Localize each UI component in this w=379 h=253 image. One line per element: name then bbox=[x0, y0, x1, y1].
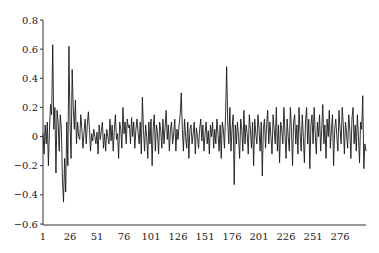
x-tick-label: 176 bbox=[222, 231, 241, 242]
y-tick-label: 0.4 bbox=[22, 73, 38, 84]
x-tick-label: 26 bbox=[64, 231, 77, 242]
y-axis-ticks: −0.6−0.4−0.200.20.40.60.8 bbox=[14, 15, 43, 230]
y-tick-label: 0.8 bbox=[22, 15, 38, 26]
x-tick-label: 51 bbox=[91, 231, 104, 242]
x-axis-ticks: 1265176101126151176201226251276 bbox=[40, 231, 350, 242]
line-chart: −0.6−0.4−0.200.20.40.60.8 12651761011261… bbox=[0, 0, 379, 253]
y-tick-label: −0.4 bbox=[14, 189, 38, 200]
y-tick-label: −0.6 bbox=[14, 219, 38, 230]
data-series-line bbox=[43, 45, 366, 202]
x-tick-label: 276 bbox=[331, 231, 350, 242]
y-tick-label: 0 bbox=[32, 131, 38, 142]
x-tick-label: 226 bbox=[277, 231, 296, 242]
x-tick-label: 126 bbox=[168, 231, 187, 242]
x-tick-label: 251 bbox=[304, 231, 323, 242]
x-tick-label: 76 bbox=[118, 231, 131, 242]
x-tick-label: 1 bbox=[40, 231, 46, 242]
x-tick-label: 151 bbox=[195, 231, 214, 242]
y-tick-label: −0.2 bbox=[14, 160, 38, 171]
x-tick-label: 101 bbox=[141, 231, 160, 242]
y-tick-label: 0.2 bbox=[22, 102, 38, 113]
x-tick-label: 201 bbox=[250, 231, 269, 242]
y-tick-label: 0.6 bbox=[22, 44, 38, 55]
